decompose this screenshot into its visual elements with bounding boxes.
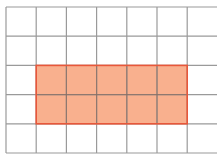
grid-canvas — [0, 0, 217, 163]
grid-diagram — [0, 0, 217, 163]
